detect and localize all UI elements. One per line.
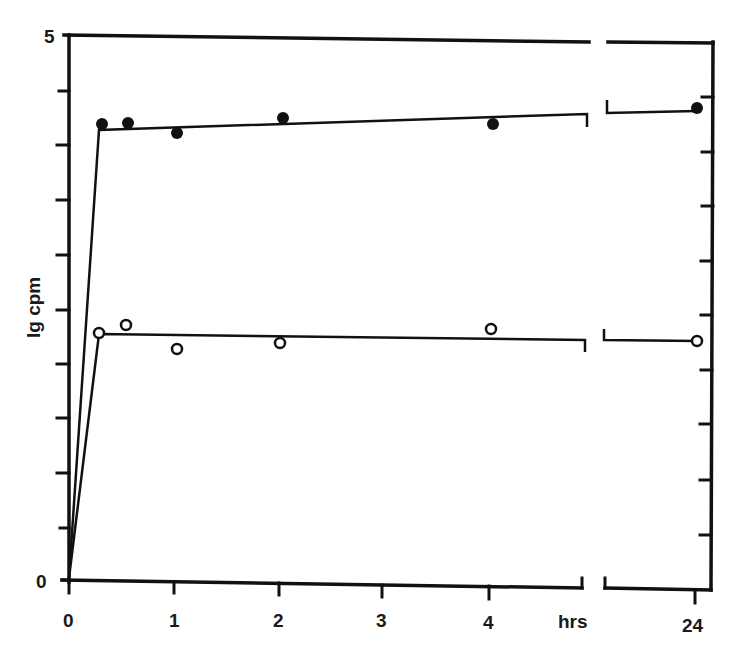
data-point-filled <box>96 118 108 130</box>
x-axis-left <box>62 580 582 588</box>
data-point-open <box>692 336 702 346</box>
data-point-open <box>121 320 131 330</box>
data-point-open <box>94 328 104 338</box>
data-point-open <box>275 338 285 348</box>
x-tick-label-1: 1 <box>169 610 180 631</box>
x-tick-label-3: 3 <box>376 610 387 631</box>
data-point-filled <box>171 127 183 139</box>
x-tick-label-24: 24 <box>682 615 704 636</box>
series-open-fit <box>69 329 697 578</box>
y-tick-label-bottom: 0 <box>36 571 47 592</box>
x-tick-label-4: 4 <box>483 612 494 633</box>
y-tick-label-top: 5 <box>44 26 55 47</box>
data-point-filled <box>487 118 499 130</box>
top-border-right <box>608 42 713 43</box>
chart-canvas: 5 0 0 1 2 3 4 hrs 24 lg cpm <box>0 0 729 660</box>
data-point-open <box>172 344 182 354</box>
data-point-open <box>486 324 496 334</box>
y-ticks-left <box>57 91 69 580</box>
x-axis-unit-label: hrs <box>558 611 588 632</box>
x-tick-label-2: 2 <box>273 610 284 631</box>
x-tick-label-0: 0 <box>63 610 74 631</box>
top-border-left <box>64 35 589 42</box>
data-point-filled <box>277 112 289 124</box>
data-point-filled <box>122 117 134 129</box>
data-point-filled <box>691 102 703 114</box>
y-axis-label: lg cpm <box>23 277 44 338</box>
